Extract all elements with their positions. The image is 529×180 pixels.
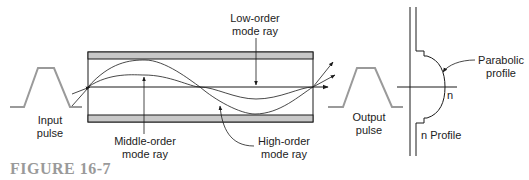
output-pulse-label: Output pulse: [348, 111, 390, 137]
high-order-pointer: [220, 106, 254, 146]
entry-arrow-1: [72, 87, 90, 94]
low-order-label: Low-order mode ray: [225, 12, 285, 38]
high-order-line2: mode ray: [253, 148, 315, 161]
figure-caption: FIGURE 16-7: [10, 160, 111, 178]
top-cladding: [88, 52, 313, 59]
parabolic-profile-label: Parabolic profile: [474, 54, 528, 80]
parabolic-pointer: [443, 60, 475, 72]
input-pulse-line2: pulse: [30, 127, 70, 140]
middle-order-line2: mode ray: [110, 148, 180, 161]
exit-arrow-middle: [313, 75, 335, 87]
input-pulse-waveform: [10, 68, 82, 107]
output-pulse-line1: Output: [348, 111, 390, 124]
middle-order-line1: Middle-order: [110, 135, 180, 148]
n-axis-label: n: [447, 89, 453, 102]
high-order-line1: High-order: [253, 135, 315, 148]
exit-arrow-high: [313, 62, 333, 87]
low-order-line1: Low-order: [225, 12, 285, 25]
middle-order-label: Middle-order mode ray: [110, 135, 180, 161]
bottom-cladding: [88, 115, 313, 122]
output-pulse-waveform: [328, 68, 403, 107]
high-order-label: High-order mode ray: [253, 135, 315, 161]
output-pulse-line2: pulse: [348, 124, 390, 137]
parabolic-line1: Parabolic: [474, 54, 528, 67]
n-profile-label: n Profile: [421, 129, 461, 142]
input-pulse-line1: Input: [30, 114, 70, 127]
input-pulse-label: Input pulse: [30, 114, 70, 140]
low-order-line2: mode ray: [225, 25, 285, 38]
parabolic-line2: profile: [474, 67, 528, 80]
